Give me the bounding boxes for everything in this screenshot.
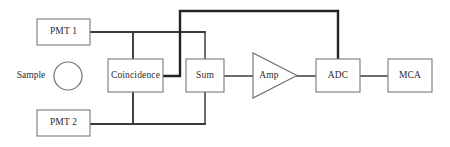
mca-box-shape[interactable]: [388, 59, 432, 92]
block-diagram: PMT 1 Sample PMT 2 Coincidence Sum Amp A…: [0, 0, 450, 147]
pmt2-box-shape[interactable]: [37, 110, 90, 136]
diagram-canvas: [0, 0, 450, 147]
sum-box-shape[interactable]: [186, 59, 224, 92]
node-shape-layer: [37, 19, 432, 136]
sample-label: Sample: [17, 71, 46, 81]
amp-triangle-shape[interactable]: [253, 53, 297, 98]
coincidence-box-shape[interactable]: [108, 59, 163, 92]
adc-box-shape[interactable]: [316, 59, 360, 92]
sample-circle-shape[interactable]: [54, 62, 82, 90]
pmt1-box-shape[interactable]: [37, 19, 90, 45]
